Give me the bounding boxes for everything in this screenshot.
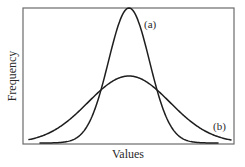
curve-b [29, 76, 231, 140]
x-axis-label: Values [112, 147, 144, 161]
y-axis-label: Frequency [5, 51, 19, 102]
curve-b-label: (b) [213, 120, 226, 133]
curve-a-label: (a) [144, 18, 157, 31]
chart: (a) (b) Values Frequency [0, 0, 245, 167]
